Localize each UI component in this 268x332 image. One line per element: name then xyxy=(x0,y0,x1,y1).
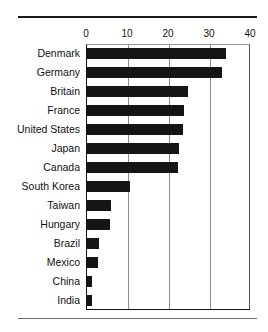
category-label-britain: Britain xyxy=(0,82,80,101)
bottom-rule-divider xyxy=(18,318,257,319)
bar-mexico xyxy=(87,257,98,268)
bar-row: India xyxy=(0,291,268,310)
bar-united-states xyxy=(87,124,183,135)
category-label-japan: Japan xyxy=(0,139,80,158)
category-label-united-states: United States xyxy=(0,120,80,139)
bar-row: Mexico xyxy=(0,253,268,272)
category-label-india: India xyxy=(0,291,80,310)
category-label-france: France xyxy=(0,101,80,120)
bar-row: China xyxy=(0,272,268,291)
bar-row: Japan xyxy=(0,139,268,158)
category-label-hungary: Hungary xyxy=(0,215,80,234)
bar-row: United States xyxy=(0,120,268,139)
category-label-south-korea: South Korea xyxy=(0,177,80,196)
x-tick-label-10: 10 xyxy=(115,28,139,40)
bar-row: France xyxy=(0,101,268,120)
category-label-denmark: Denmark xyxy=(0,44,80,63)
bar-germany xyxy=(87,67,222,78)
category-label-mexico: Mexico xyxy=(0,253,80,272)
x-tick-label-40: 40 xyxy=(238,28,262,40)
category-label-brazil: Brazil xyxy=(0,234,80,253)
category-label-china: China xyxy=(0,272,80,291)
bar-south-korea xyxy=(87,181,130,192)
bar-row: Brazil xyxy=(0,234,268,253)
bar-row: Germany xyxy=(0,63,268,82)
bar-japan xyxy=(87,143,179,154)
bar-brazil xyxy=(87,238,99,249)
bar-china xyxy=(87,276,92,287)
bar-britain xyxy=(87,86,188,97)
bar-france xyxy=(87,105,184,116)
bar-row: Hungary xyxy=(0,215,268,234)
bar-row: Denmark xyxy=(0,44,268,63)
category-label-taiwan: Taiwan xyxy=(0,196,80,215)
x-tick-label-30: 30 xyxy=(197,28,221,40)
bar-chart-figure: 010203040 DenmarkGermanyBritainFranceUni… xyxy=(0,0,268,332)
bar-row: South Korea xyxy=(0,177,268,196)
bar-taiwan xyxy=(87,200,111,211)
category-label-canada: Canada xyxy=(0,158,80,177)
bar-canada xyxy=(87,162,178,173)
bar-row: Taiwan xyxy=(0,196,268,215)
x-tick-label-20: 20 xyxy=(156,28,180,40)
bar-row: Canada xyxy=(0,158,268,177)
bar-row: Britain xyxy=(0,82,268,101)
x-axis-tick-labels: 010203040 xyxy=(0,28,268,41)
bar-hungary xyxy=(87,219,110,230)
top-rule-divider xyxy=(18,16,257,18)
bar-india xyxy=(87,295,92,306)
bar-denmark xyxy=(87,48,226,59)
bar-rows: DenmarkGermanyBritainFranceUnited States… xyxy=(0,44,268,310)
x-tick-label-0: 0 xyxy=(74,28,98,40)
category-label-germany: Germany xyxy=(0,63,80,82)
